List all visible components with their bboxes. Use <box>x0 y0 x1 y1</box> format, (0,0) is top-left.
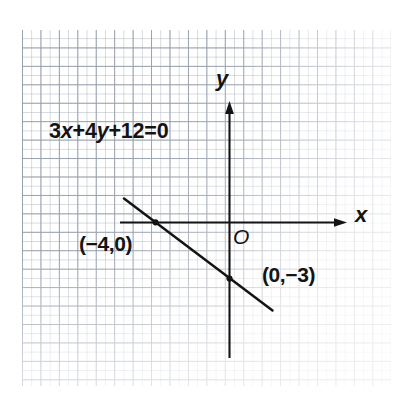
plotted-line-3x-4y-12 <box>124 199 273 311</box>
x-axis-arrowhead-icon <box>334 218 347 227</box>
x-axis-label: x <box>355 204 367 226</box>
point-marker-y-intercept <box>226 275 232 281</box>
point-marker-x-intercept <box>152 219 158 225</box>
equation-term-constant: +12=0 <box>108 119 168 143</box>
equation-term-coefficient-3: 3 <box>49 119 61 143</box>
y-intercept-coordinate-label: (0,−3) <box>262 264 315 285</box>
equation-label: 3x+4y+12=0 <box>49 121 168 143</box>
origin-label: O <box>233 226 249 247</box>
y-axis-arrowhead-icon <box>225 101 234 114</box>
equation-variable-y: y <box>97 119 109 143</box>
equation-variable-x: x <box>61 119 73 143</box>
y-axis-label: y <box>216 68 228 90</box>
coordinate-plane-drawing <box>0 0 414 415</box>
figure-canvas: 3x+4y+12=0 y x O (−4,0) (0,−3) <box>0 0 414 415</box>
equation-term-plus-4: +4 <box>73 119 97 143</box>
x-intercept-coordinate-label: (−4,0) <box>79 233 132 254</box>
